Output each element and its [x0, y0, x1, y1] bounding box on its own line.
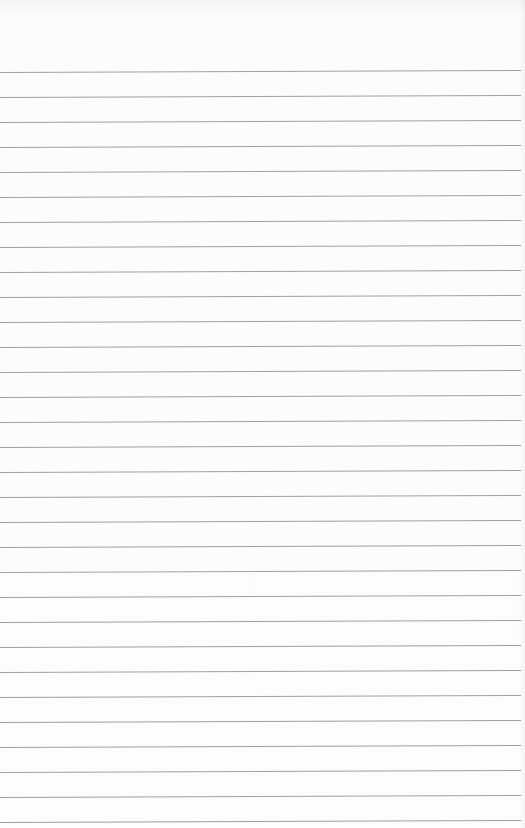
ruled-line	[0, 170, 521, 173]
ruled-line	[0, 320, 521, 323]
ruled-line	[0, 345, 521, 348]
ruled-line	[0, 795, 521, 798]
ruled-line	[0, 670, 521, 673]
ruled-line	[0, 395, 521, 398]
ruled-line	[0, 270, 521, 273]
ruled-line	[0, 645, 521, 648]
ruled-line	[0, 470, 521, 473]
ruled-line	[0, 495, 521, 498]
ruled-line	[0, 820, 521, 823]
ruled-line	[0, 770, 521, 773]
ruled-line	[0, 195, 521, 198]
ruled-line	[0, 695, 521, 698]
ruled-line	[0, 145, 521, 148]
ruled-line	[0, 520, 521, 523]
ruled-line	[0, 720, 521, 723]
ruled-line	[0, 70, 521, 73]
ruled-line	[0, 420, 521, 423]
ruled-line	[0, 620, 521, 623]
ruled-line	[0, 745, 521, 748]
ruled-line	[0, 295, 521, 298]
ruled-line	[0, 595, 521, 598]
ruled-line	[0, 245, 521, 248]
ruled-line	[0, 95, 521, 98]
ruled-line	[0, 570, 521, 573]
ruled-line	[0, 545, 521, 548]
ruled-paper-sheet	[0, 0, 525, 828]
paper-edge-shadow	[519, 0, 525, 828]
ruled-line	[0, 445, 521, 448]
ruled-line	[0, 120, 521, 123]
ruled-line	[0, 370, 521, 373]
ruled-line	[0, 220, 521, 223]
